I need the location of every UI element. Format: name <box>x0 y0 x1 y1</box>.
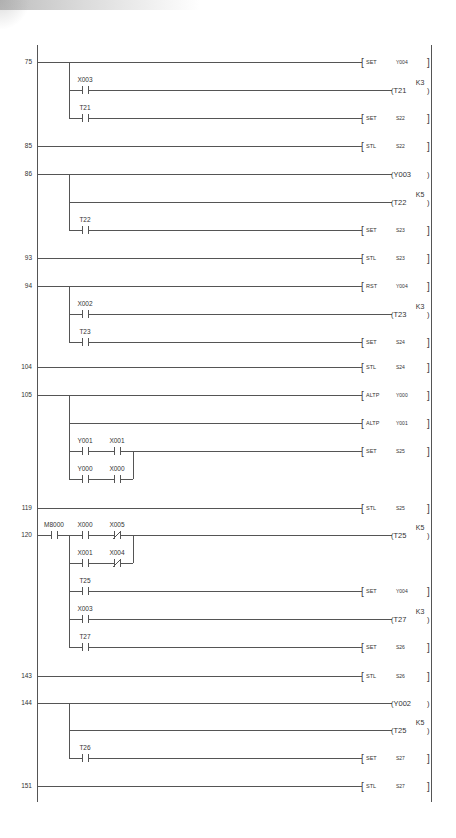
rung-85: 85[STLS22] <box>25 141 430 152</box>
bracket-open: [ <box>361 781 364 792</box>
bracket-close: ] <box>427 113 430 124</box>
bracket-close: ] <box>427 390 430 401</box>
instruction-set[interactable]: [SETY004] <box>361 586 430 597</box>
coil-close: ) <box>427 615 430 624</box>
step-number: 120 <box>21 531 32 538</box>
no-contact[interactable]: T21 <box>79 104 91 122</box>
instruction-operand: S27 <box>396 783 405 789</box>
no-contact[interactable]: X001 <box>109 437 125 455</box>
bracket-open: [ <box>361 225 364 236</box>
no-contact[interactable]: T22 <box>79 216 91 234</box>
contact-device-label: X004 <box>109 549 125 556</box>
bracket-close: ] <box>427 781 430 792</box>
contact-device-label: T26 <box>79 744 91 751</box>
rung-94: 94[RSTY004]X002(T23)K3T23[SETS24] <box>25 281 430 348</box>
instruction-operand: S24 <box>396 339 405 345</box>
bracket-close: ] <box>427 281 430 292</box>
instruction-set[interactable]: [SETS27] <box>361 753 430 764</box>
rung-119: 119[STLS25] <box>22 503 430 514</box>
no-contact[interactable]: X000 <box>109 465 125 483</box>
step-number: 119 <box>22 504 33 511</box>
output-coil[interactable]: (T23)K3 <box>391 303 430 319</box>
no-contact[interactable]: T23 <box>79 328 91 346</box>
no-contact[interactable]: X001 <box>77 549 93 567</box>
contact-device-label: X005 <box>109 521 125 528</box>
instruction-operand: S25 <box>396 505 405 511</box>
coil-close: ) <box>427 310 430 319</box>
no-contact[interactable]: X003 <box>77 76 93 94</box>
no-contact[interactable]: Y001 <box>77 437 93 455</box>
contact-device-label: T25 <box>79 577 91 584</box>
instruction-stl[interactable]: [STLS25] <box>361 503 430 514</box>
instruction-operand: Y000 <box>396 392 408 398</box>
output-coil[interactable]: (Y002) <box>391 699 430 708</box>
no-contact[interactable]: T25 <box>79 577 91 595</box>
instruction-set[interactable]: [SETS22] <box>361 113 430 124</box>
contact-device-label: T22 <box>79 216 91 223</box>
instruction-operand: S27 <box>396 755 405 761</box>
instruction-stl[interactable]: [STLS26] <box>361 671 430 682</box>
instruction-stl[interactable]: [STLS22] <box>361 141 430 152</box>
coil-operand: (T25 <box>391 531 406 540</box>
instruction-set[interactable]: [SETY004] <box>361 57 430 68</box>
instruction-stl[interactable]: [STLS23] <box>361 253 430 264</box>
nc-contact[interactable]: X005 <box>109 521 125 539</box>
output-coil[interactable]: (T25)K5 <box>391 524 430 540</box>
instruction-altp[interactable]: [ALTPY000] <box>361 390 430 401</box>
bracket-close: ] <box>427 362 430 373</box>
instruction-operand: Y004 <box>396 588 408 594</box>
coil-constant: K5 <box>416 191 425 198</box>
step-number: 86 <box>25 170 33 177</box>
no-contact[interactable]: X003 <box>77 605 93 623</box>
instruction-op: SET <box>366 588 377 594</box>
contact-device-label: T27 <box>79 633 91 640</box>
bracket-open: [ <box>361 362 364 373</box>
instruction-operand: Y004 <box>396 283 408 289</box>
output-coil[interactable]: (T21)K3 <box>391 79 430 95</box>
no-contact[interactable]: X002 <box>77 300 93 318</box>
instruction-operand: S22 <box>396 143 405 149</box>
bracket-open: [ <box>361 586 364 597</box>
coil-operand: (Y003 <box>391 170 411 179</box>
coil-close: ) <box>427 170 430 179</box>
no-contact[interactable]: M8000 <box>44 521 64 539</box>
no-contact[interactable]: T27 <box>79 633 91 651</box>
instruction-op: STL <box>366 143 376 149</box>
step-number: 143 <box>21 672 32 679</box>
instruction-set[interactable]: [SETS23] <box>361 225 430 236</box>
instruction-op: STL <box>366 364 376 370</box>
no-contact[interactable]: Y000 <box>77 465 93 483</box>
instruction-set[interactable]: [SETS24] <box>361 337 430 348</box>
output-coil[interactable]: (T27)K3 <box>391 608 430 624</box>
instruction-altp[interactable]: [ALTPY001] <box>361 418 430 429</box>
contact-device-label: X001 <box>109 437 125 444</box>
instruction-op: SET <box>366 644 377 650</box>
nc-contact[interactable]: X004 <box>109 549 125 567</box>
bracket-close: ] <box>427 503 430 514</box>
bracket-open: [ <box>361 671 364 682</box>
output-coil[interactable]: (T25)K5 <box>391 719 430 735</box>
step-number: 93 <box>25 254 33 261</box>
no-contact[interactable]: T26 <box>79 744 91 762</box>
bracket-open: [ <box>361 113 364 124</box>
coil-close: ) <box>427 699 430 708</box>
coil-constant: K5 <box>416 719 425 726</box>
rung-143: 143[STLS26] <box>21 671 430 682</box>
rung-104: 104[STLS24] <box>21 362 430 373</box>
instruction-op: ALTP <box>366 392 380 398</box>
instruction-stl[interactable]: [STLS27] <box>361 781 430 792</box>
instruction-rst[interactable]: [RSTY004] <box>361 281 430 292</box>
bracket-close: ] <box>427 57 430 68</box>
bracket-close: ] <box>427 671 430 682</box>
output-coil[interactable]: (T22)K5 <box>391 191 430 207</box>
coil-constant: K3 <box>416 608 425 615</box>
output-coil[interactable]: (Y003) <box>391 170 430 179</box>
no-contact[interactable]: X000 <box>77 521 93 539</box>
instruction-set[interactable]: [SETS26] <box>361 642 430 653</box>
coil-close: ) <box>427 531 430 540</box>
instruction-stl[interactable]: [STLS24] <box>361 362 430 373</box>
bracket-open: [ <box>361 57 364 68</box>
instruction-op: SET <box>366 115 377 121</box>
rung-151: 151[STLS27] <box>21 781 430 792</box>
instruction-set[interactable]: [SETS25] <box>361 446 430 457</box>
